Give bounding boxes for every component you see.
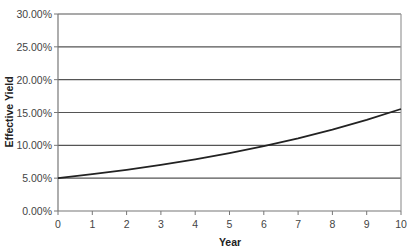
x-tick-label: 5 xyxy=(227,218,233,230)
x-tick-label: 8 xyxy=(329,218,335,230)
y-tick-label: 15.00% xyxy=(16,107,52,119)
y-tick-label: 10.00% xyxy=(16,139,52,151)
x-tick-label: 9 xyxy=(364,218,370,230)
y-tick-label: 5.00% xyxy=(22,172,52,184)
x-tick-label: 10 xyxy=(395,218,407,230)
x-tick-label: 1 xyxy=(89,218,95,230)
y-tick-label: 20.00% xyxy=(16,74,52,86)
axes xyxy=(54,14,401,215)
y-tick-label: 30.00% xyxy=(16,8,52,20)
x-tick-label: 7 xyxy=(295,218,301,230)
y-axis-tick-labels: 0.00%5.00%10.00%15.00%20.00%25.00%30.00% xyxy=(16,8,52,217)
x-tick-label: 0 xyxy=(55,218,61,230)
x-tick-label: 4 xyxy=(192,218,198,230)
effective-yield-line xyxy=(58,109,401,178)
y-tick-label: 0.00% xyxy=(22,205,52,217)
x-axis-tick-labels: 012345678910 xyxy=(55,218,407,230)
x-tick-label: 2 xyxy=(124,218,130,230)
x-axis-title: Year xyxy=(219,236,241,248)
y-axis-title: Effective Yield xyxy=(3,76,15,147)
effective-yield-chart: 0.00%5.00%10.00%15.00%20.00%25.00%30.00%… xyxy=(0,0,407,249)
x-tick-label: 6 xyxy=(261,218,267,230)
y-tick-label: 25.00% xyxy=(16,41,52,53)
x-tick-label: 3 xyxy=(158,218,164,230)
